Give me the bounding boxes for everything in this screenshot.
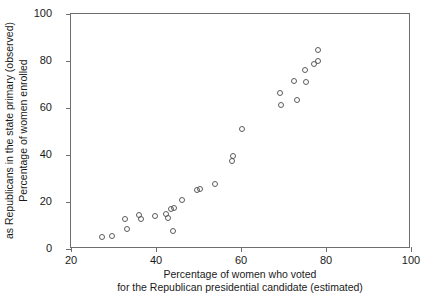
data-point: [171, 205, 177, 211]
x-tick-label-60: 60: [221, 255, 261, 266]
data-point: [229, 158, 235, 164]
data-point: [170, 228, 176, 234]
data-point: [303, 79, 309, 85]
y-tick-label-100: 100: [0, 8, 52, 19]
data-point: [122, 216, 128, 222]
x-tick-label-20: 20: [51, 255, 91, 266]
data-point: [302, 67, 308, 73]
data-point: [239, 126, 245, 132]
data-point: [109, 233, 115, 239]
x-tick-40: [156, 247, 157, 252]
scatter-points-layer: [71, 14, 409, 247]
x-tick-20: [71, 247, 72, 252]
data-point: [277, 90, 283, 96]
y-tick-label-20: 20: [0, 196, 52, 207]
y-tick-label-80: 80: [0, 55, 52, 66]
x-tick-label-40: 40: [136, 255, 176, 266]
data-point: [212, 181, 218, 187]
x-axis-label-line-1: Percentage of women who voted: [70, 268, 410, 281]
plot-area: 0 20 40 60 80 100 20 40 60 80 100: [70, 13, 410, 248]
y-tick-label-0: 0: [0, 243, 52, 254]
data-point: [294, 97, 300, 103]
x-tick-100: [411, 247, 412, 252]
data-point: [179, 197, 185, 203]
x-tick-80: [326, 247, 327, 252]
x-tick-label-80: 80: [306, 255, 346, 266]
data-point: [124, 226, 130, 232]
data-point: [278, 102, 284, 108]
data-point: [99, 234, 105, 240]
y-tick-label-60: 60: [0, 102, 52, 113]
x-axis-label: Percentage of women who voted for the Re…: [70, 268, 410, 294]
x-tick-60: [241, 247, 242, 252]
data-point: [315, 47, 321, 53]
data-point: [197, 186, 203, 192]
data-point: [138, 216, 144, 222]
scatter-chart-figure: Percentage of women enrolled as Republic…: [0, 0, 421, 303]
data-point: [165, 215, 171, 221]
y-axis-label: Percentage of women enrolled as Republic…: [0, 13, 32, 248]
data-point: [152, 213, 158, 219]
y-tick-label-40: 40: [0, 149, 52, 160]
data-point: [315, 58, 321, 64]
x-axis-label-line-2: for the Republican presidential candidat…: [70, 281, 410, 294]
data-point: [230, 153, 236, 159]
data-point: [291, 78, 297, 84]
x-tick-label-100: 100: [391, 255, 421, 266]
